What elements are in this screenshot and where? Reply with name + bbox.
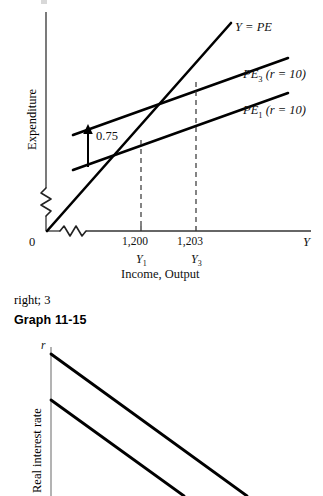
graph-heading: Graph 11-15: [14, 313, 87, 327]
line-investment-demand-inner: [51, 400, 184, 496]
line-investment-demand-outer: [51, 354, 247, 496]
answer-text: right; 3: [14, 293, 50, 308]
xtick-value-y1: 1,200: [122, 236, 148, 248]
series-label-pe1-paren: (r = 10): [266, 103, 306, 117]
y-axis-break-zigzag: [41, 188, 51, 216]
keynesian-cross-chart: [0, 0, 323, 250]
xtick-symbol-y1-letter: Y: [136, 252, 143, 266]
series-label-pe1-symbol: PE: [243, 103, 258, 117]
x-axis-break-zigzag: [60, 226, 86, 236]
investment-demand-chart: [0, 330, 323, 496]
xtick-symbol-y3-letter: Y: [191, 252, 198, 266]
bottom-y-axis-tip-label: r: [41, 340, 45, 352]
series-label-pe3-symbol: PE: [243, 67, 258, 81]
series-label-pe3-paren: (r = 10): [266, 67, 306, 81]
line-y-equals-pe: [47, 23, 231, 231]
origin-label: 0: [29, 236, 35, 249]
series-label-pe1-subscript: 1: [258, 110, 262, 120]
series-label-pe3: PE3 (r = 10): [243, 68, 306, 83]
series-label-pe3-subscript: 3: [258, 74, 262, 84]
shift-annotation-label: 0.75: [96, 130, 118, 143]
top-x-axis-title: Income, Output: [121, 268, 199, 281]
bottom-y-axis-title: Real interest rate: [31, 408, 44, 493]
series-label-y-equals-pe: Y = PE: [235, 21, 272, 34]
xtick-value-y3: 1,203: [177, 236, 203, 248]
top-y-axis-title: Expenditure: [26, 89, 39, 150]
series-label-pe1: PE1 (r = 10): [243, 104, 306, 119]
x-axis-ticks: [141, 226, 196, 231]
figure-page: Expenditure Y = PE PE3 (r = 10) PE1 (r =…: [0, 0, 323, 496]
x-axis-end-label: Y: [303, 236, 310, 249]
